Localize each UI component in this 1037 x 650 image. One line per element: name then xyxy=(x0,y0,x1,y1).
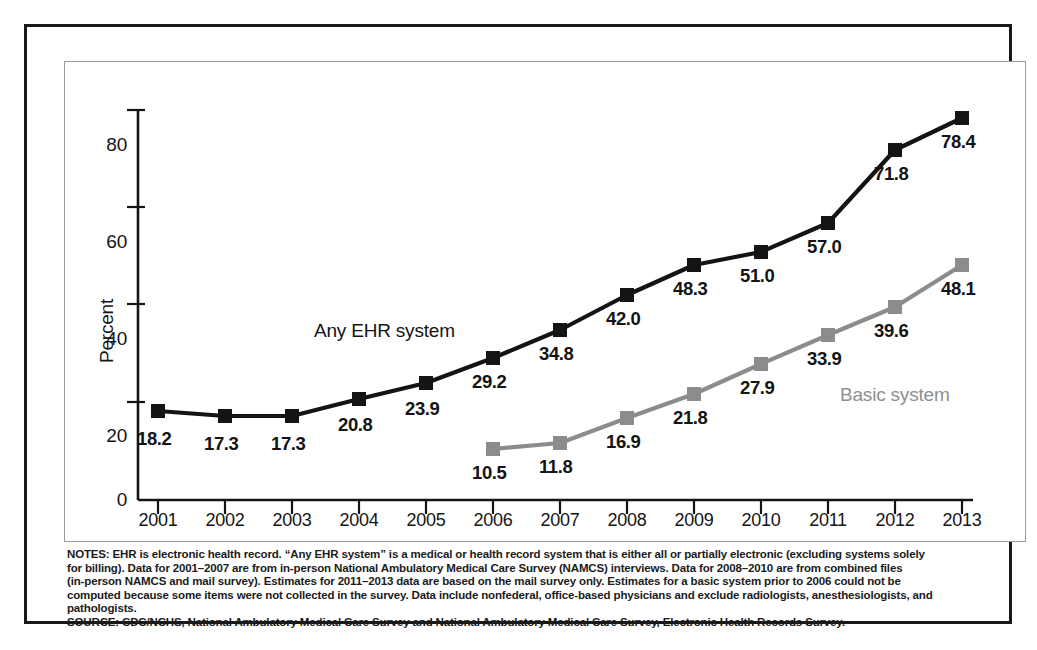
marker-any-2001 xyxy=(151,404,165,418)
figure-page: Percent 80 60 40 20 0 2001 2002 2003 200… xyxy=(0,0,1037,650)
marker-basic-2009 xyxy=(687,387,701,401)
data-label-any-2011: 57.0 xyxy=(807,236,841,258)
data-label-any-2002: 17.3 xyxy=(204,433,238,455)
data-label-any-2004: 20.8 xyxy=(338,414,372,436)
data-label-basic-2009: 21.8 xyxy=(673,407,707,429)
marker-any-2005 xyxy=(419,376,433,390)
data-label-any-2007: 34.8 xyxy=(539,343,573,365)
notes-line-1: NOTES: EHR is electronic health record. … xyxy=(67,548,1022,562)
notes-line-5: pathologists. xyxy=(67,602,1022,616)
data-label-basic-2012: 39.6 xyxy=(874,320,908,342)
marker-basic-2006 xyxy=(486,442,500,456)
data-label-any-2001: 18.2 xyxy=(137,428,171,450)
marker-basic-2010 xyxy=(754,357,768,371)
marker-basic-2011 xyxy=(821,328,835,342)
notes-line-2: for billing). Data for 2001–2007 are fro… xyxy=(67,562,1022,576)
notes-block: NOTES: EHR is electronic health record. … xyxy=(67,548,1022,630)
series-line-any-ehr-system xyxy=(158,118,962,416)
marker-basic-2007 xyxy=(553,436,567,450)
data-label-any-2010: 51.0 xyxy=(740,265,774,287)
data-label-any-2013: 78.4 xyxy=(941,131,975,153)
marker-basic-2012 xyxy=(888,300,902,314)
marker-basic-2008 xyxy=(620,411,634,425)
marker-any-2010 xyxy=(754,245,768,259)
data-label-basic-2011: 33.9 xyxy=(807,348,841,370)
chart-plot-frame: Percent 80 60 40 20 0 2001 2002 2003 200… xyxy=(64,61,1026,542)
data-label-any-2005: 23.9 xyxy=(405,398,439,420)
marker-any-2002 xyxy=(218,409,232,423)
marker-any-2004 xyxy=(352,392,366,406)
data-label-any-2012: 71.8 xyxy=(874,163,908,185)
figure-outer-frame: Percent 80 60 40 20 0 2001 2002 2003 200… xyxy=(24,24,1012,624)
marker-any-2009 xyxy=(687,258,701,272)
series-annotation-any-ehr-system: Any EHR system xyxy=(314,320,455,342)
marker-basic-2013 xyxy=(955,258,969,272)
data-label-basic-2013: 48.1 xyxy=(941,278,975,300)
notes-line-3: (in-person NAMCS and mail survey). Estim… xyxy=(67,575,1022,589)
data-label-basic-2006: 10.5 xyxy=(472,462,506,484)
marker-any-2003 xyxy=(285,409,299,423)
data-label-basic-2010: 27.9 xyxy=(740,377,774,399)
data-label-any-2009: 48.3 xyxy=(673,278,707,300)
series-annotation-basic-system: Basic system xyxy=(840,384,950,406)
marker-any-2013 xyxy=(955,111,969,125)
source-line: SOURCE: CDC/NCHS, National Ambulatory Me… xyxy=(67,616,1022,630)
marker-any-2008 xyxy=(620,288,634,302)
marker-any-2007 xyxy=(553,323,567,337)
data-label-any-2003: 17.3 xyxy=(271,433,305,455)
data-label-any-2008: 42.0 xyxy=(606,308,640,330)
data-label-basic-2007: 11.8 xyxy=(539,456,572,478)
data-label-any-2006: 29.2 xyxy=(472,371,506,393)
marker-any-2006 xyxy=(486,351,500,365)
data-label-basic-2008: 16.9 xyxy=(606,431,640,453)
marker-any-2012 xyxy=(888,143,902,157)
marker-any-2011 xyxy=(821,216,835,230)
notes-line-4: computed because some items were not col… xyxy=(67,589,1022,603)
